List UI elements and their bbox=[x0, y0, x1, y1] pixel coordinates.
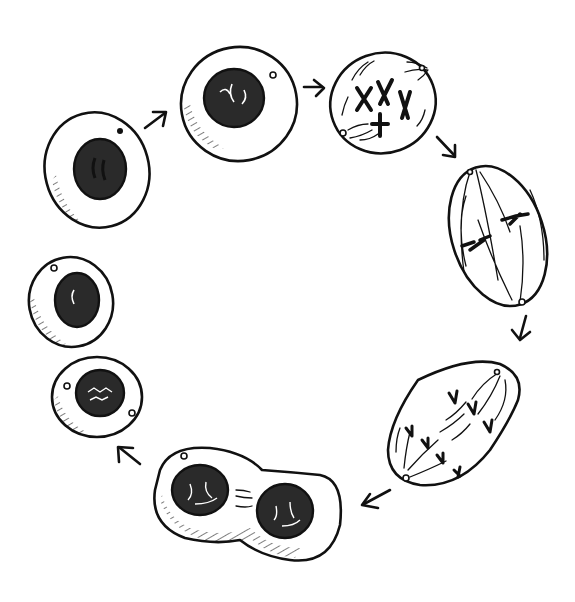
chromatids bbox=[406, 391, 492, 477]
cell-metaphase bbox=[432, 153, 564, 318]
centrosome-dot bbox=[117, 128, 123, 134]
chromosomes-x bbox=[357, 80, 410, 136]
arrow-3 bbox=[437, 137, 455, 157]
cell-daughter-2 bbox=[22, 250, 120, 353]
arrow-2 bbox=[304, 80, 324, 96]
cell-prometaphase bbox=[316, 38, 450, 168]
cell-prophase-early bbox=[172, 38, 306, 170]
cell-interphase-1 bbox=[32, 101, 162, 240]
arrow-4 bbox=[512, 316, 530, 340]
mitosis-cycle-illustration bbox=[0, 0, 575, 602]
cell-anaphase bbox=[388, 362, 520, 486]
arrow-5 bbox=[362, 490, 390, 508]
mitosis-diagram bbox=[0, 0, 575, 602]
arrow-6 bbox=[118, 447, 140, 464]
arrow-1 bbox=[145, 112, 166, 128]
cell-telophase bbox=[154, 448, 340, 561]
cell-daughter-1 bbox=[52, 357, 142, 437]
